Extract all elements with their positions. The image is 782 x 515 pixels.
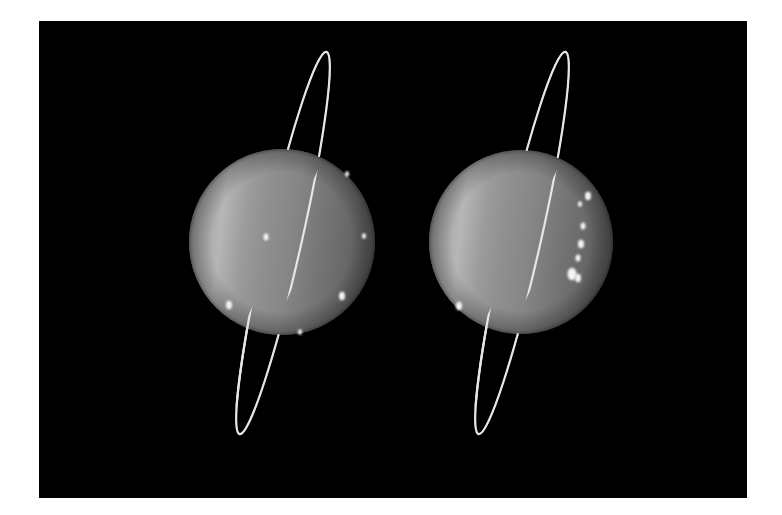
cloud-spot	[298, 329, 302, 335]
planet-limb-shading	[189, 149, 375, 335]
cloud-spot	[226, 301, 232, 309]
uranus-panel-2	[429, 48, 613, 438]
cloud-spot	[585, 192, 591, 200]
uranus-scene	[39, 21, 747, 498]
cloud-spot	[581, 223, 586, 230]
cloud-spot	[345, 171, 349, 177]
cloud-spot	[362, 233, 366, 239]
cloud-spot	[456, 302, 462, 310]
cloud-spot	[578, 240, 584, 248]
cloud-spot	[576, 255, 581, 262]
cloud-spot	[578, 201, 582, 207]
uranus-panel-1	[189, 48, 375, 438]
image-frame: Uranus with ring system, two views side …	[39, 21, 747, 498]
cloud-spot	[575, 274, 581, 282]
cloud-spot	[264, 234, 269, 241]
cloud-spot	[339, 292, 345, 300]
